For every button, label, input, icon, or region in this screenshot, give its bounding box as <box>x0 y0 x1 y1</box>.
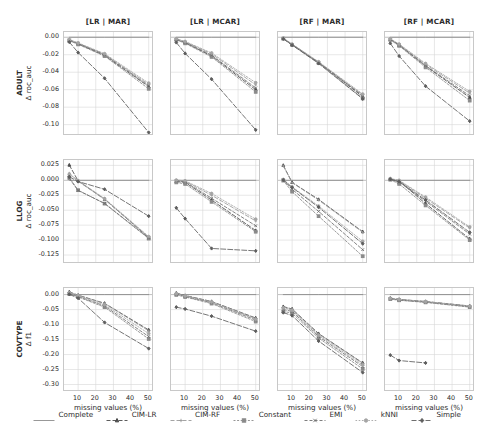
ytick-label: -0.30 <box>21 380 59 388</box>
xtick-label: 20 <box>91 394 99 402</box>
xtick-label: 20 <box>305 394 313 402</box>
ytick-label: -0.02 <box>21 50 59 58</box>
xtick-label: 20 <box>412 394 420 402</box>
ytick-label: -0.050 <box>21 205 59 213</box>
xtick-label: 30 <box>429 394 437 402</box>
ytick-label: -0.125 <box>21 250 59 258</box>
legend-item-cim-lr[interactable]: CIM-LR <box>106 410 156 419</box>
ytick-label: -0.075 <box>21 220 59 228</box>
panel-adult-rf-mcar <box>384 31 474 135</box>
ytick-label: 0.00 <box>21 32 59 40</box>
xtick-label: 10 <box>394 394 402 402</box>
legend-swatch-plus-icon <box>170 410 192 419</box>
xtick-label: 40 <box>233 394 241 402</box>
ytick-label: -0.100 <box>21 235 59 243</box>
legend-label: CIM-LR <box>132 410 157 419</box>
xtick-label: 50 <box>144 394 152 402</box>
legend-item-simple[interactable]: Simple <box>411 410 461 419</box>
legend-item-knni[interactable]: kNNI <box>355 410 398 419</box>
xtick-label: 10 <box>73 394 81 402</box>
legend-item-constant[interactable]: Constant <box>233 410 291 419</box>
xtick-label: 10 <box>180 394 188 402</box>
xtick-label: 30 <box>215 394 223 402</box>
legend-label: kNNI <box>381 410 398 419</box>
xtick-label: 40 <box>340 394 348 402</box>
column-title-1: [LR | MAR] <box>63 17 153 26</box>
xtick-label: 50 <box>358 394 366 402</box>
panel-adult-rf-mar <box>277 31 367 135</box>
panel-covtype-rf-mar <box>277 287 367 391</box>
panel-llog-rf-mar <box>277 159 367 263</box>
ytick-label: -0.20 <box>21 350 59 358</box>
xtick-label: 40 <box>447 394 455 402</box>
xtick-label: 50 <box>465 394 473 402</box>
ytick-label: -0.025 <box>21 190 59 198</box>
legend-swatch-none-icon <box>33 410 55 419</box>
column-title-2: [LR | MCAR] <box>170 17 260 26</box>
xtick-label: 10 <box>287 394 295 402</box>
xtick-label: 50 <box>251 394 259 402</box>
legend-label: EMI <box>329 410 342 419</box>
panel-llog-lr-mcar <box>170 159 260 263</box>
ytick-label: 0.025 <box>21 160 59 168</box>
ytick-label: -0.08 <box>21 102 59 110</box>
ytick-label: -0.06 <box>21 85 59 93</box>
panel-adult-lr-mar <box>63 31 153 135</box>
ytick-label: -0.10 <box>21 320 59 328</box>
legend-swatch-triangle-icon <box>106 410 128 419</box>
panel-covtype-rf-mcar <box>384 287 474 391</box>
panel-adult-lr-mcar <box>170 31 260 135</box>
column-title-4: [RF | MCAR] <box>384 17 474 26</box>
legend-label: CIM-RF <box>195 410 220 419</box>
legend-item-cim-rf[interactable]: CIM-RF <box>170 410 221 419</box>
panel-covtype-lr-mar <box>63 287 153 391</box>
ytick-label: 0.000 <box>21 175 59 183</box>
legend-swatch-x-icon <box>304 410 326 419</box>
xtick-label: 30 <box>108 394 116 402</box>
column-title-3: [RF | MAR] <box>277 17 367 26</box>
legend-item-emi[interactable]: EMI <box>304 410 342 419</box>
legend-label: Complete <box>59 410 94 419</box>
xtick-label: 30 <box>322 394 330 402</box>
chart-legend: CompleteCIM-LRCIM-RFConstantEMIkNNISimpl… <box>22 404 472 424</box>
legend-item-complete[interactable]: Complete <box>33 410 93 419</box>
ytick-label: -0.04 <box>21 67 59 75</box>
figure-grid: [LR | MAR][LR | MCAR][RF | MAR][RF | MCA… <box>0 0 490 433</box>
legend-label: Constant <box>259 410 291 419</box>
legend-swatch-diamond-icon <box>411 410 433 419</box>
legend-swatch-square-icon <box>233 410 255 419</box>
panel-llog-rf-mcar <box>384 159 474 263</box>
ytick-label: 0.00 <box>21 290 59 298</box>
ytick-label: -0.10 <box>21 120 59 128</box>
xtick-label: 20 <box>198 394 206 402</box>
xtick-label: 40 <box>126 394 134 402</box>
ytick-label: -0.25 <box>21 365 59 373</box>
ytick-label: -0.05 <box>21 305 59 313</box>
legend-swatch-circle-icon <box>355 410 377 419</box>
legend-label: Simple <box>436 410 461 419</box>
panel-llog-lr-mar <box>63 159 153 263</box>
panel-covtype-lr-mcar <box>170 287 260 391</box>
ytick-label: -0.15 <box>21 335 59 343</box>
